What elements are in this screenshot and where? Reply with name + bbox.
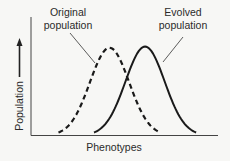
original-population-leader-line: [70, 33, 95, 63]
original-population-label-line2: population: [44, 19, 93, 31]
x-axis-label: Phenotypes: [86, 141, 141, 153]
y-axis-label: Population: [13, 81, 25, 131]
evolved-population-label-line1: Evolved: [164, 6, 202, 18]
evolved-population-leader-line: [163, 37, 183, 62]
evolved-population-label-line2: population: [159, 19, 208, 31]
up-arrow-icon: [17, 38, 23, 77]
original-population-label-line1: Original: [50, 6, 86, 18]
phenotype-distribution-diagram: Original population Evolved population P…: [0, 0, 230, 161]
